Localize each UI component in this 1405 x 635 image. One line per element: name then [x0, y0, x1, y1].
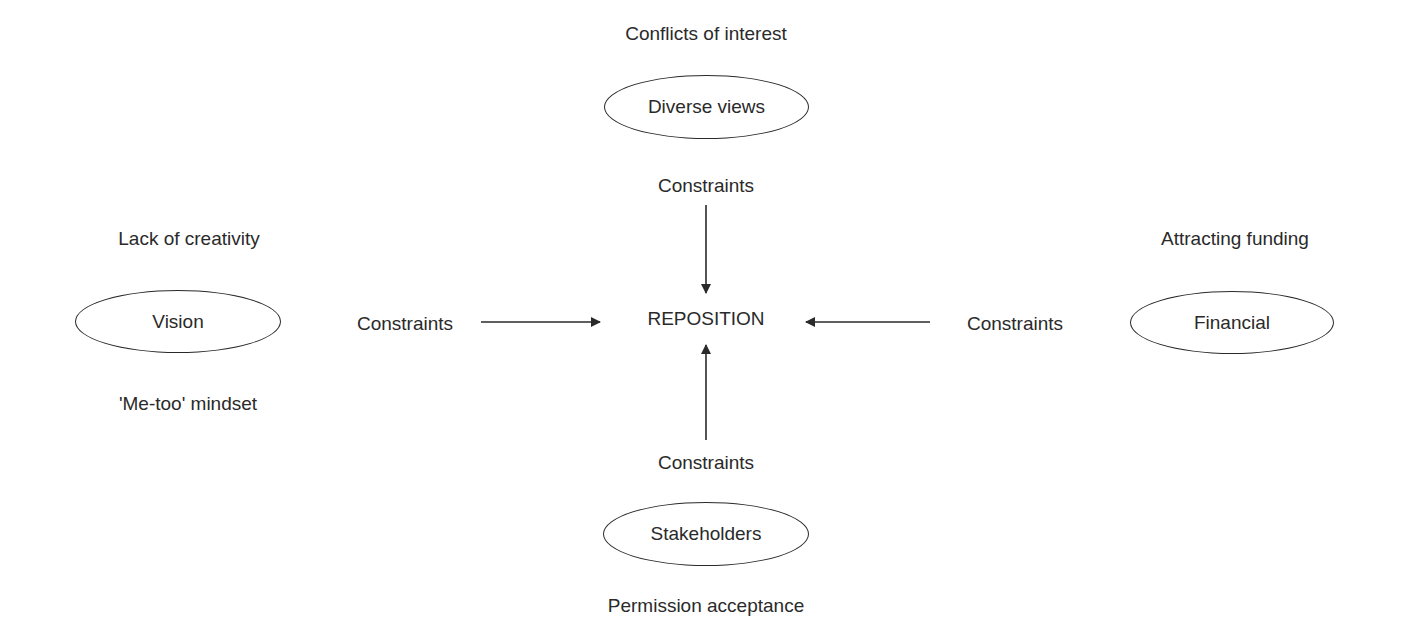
annotation-me-too-mindset: 'Me-too' mindset — [108, 392, 268, 415]
node-diverse-views: Diverse views — [604, 75, 809, 139]
node-stakeholders: Stakeholders — [603, 502, 809, 566]
annotation-lack-of-creativity: Lack of creativity — [109, 227, 269, 250]
edge-label-bottom-constraints: Constraints — [658, 451, 754, 474]
node-vision-label: Vision — [152, 311, 203, 333]
annotation-conflicts-of-interest: Conflicts of interest — [625, 22, 787, 45]
node-vision: Vision — [75, 290, 281, 353]
node-financial-label: Financial — [1194, 312, 1270, 334]
edge-label-right-constraints: Constraints — [967, 312, 1063, 335]
annotation-permission-acceptance: Permission acceptance — [608, 594, 804, 617]
edge-label-left-constraints: Constraints — [357, 312, 453, 335]
node-diverse-views-label: Diverse views — [648, 96, 765, 118]
node-financial: Financial — [1130, 291, 1334, 354]
center-node-reposition: REPOSITION — [647, 307, 764, 330]
edge-label-top-constraints: Constraints — [658, 174, 754, 197]
node-stakeholders-label: Stakeholders — [651, 523, 762, 545]
annotation-attracting-funding: Attracting funding — [1155, 227, 1315, 250]
